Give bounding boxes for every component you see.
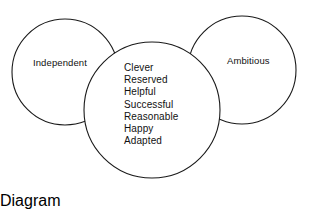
diagram-text-layer: Independent Ambitious Clever Reserved He…: [0, 0, 309, 192]
list-item: Clever: [124, 62, 178, 74]
diagram-canvas: Independent Ambitious Clever Reserved He…: [0, 0, 309, 192]
list-item: Successful: [124, 99, 178, 111]
right-circle-label: Ambitious: [227, 56, 270, 66]
list-item: Adapted: [124, 135, 178, 147]
list-item: Helpful: [124, 86, 178, 98]
list-item: Reserved: [124, 74, 178, 86]
list-item: Reasonable: [124, 111, 178, 123]
left-circle-label: Independent: [33, 58, 87, 68]
center-circle-trait-list: Clever Reserved Helpful Successful Reaso…: [124, 62, 178, 147]
list-item: Happy: [124, 123, 178, 135]
